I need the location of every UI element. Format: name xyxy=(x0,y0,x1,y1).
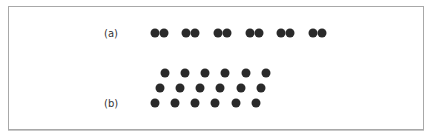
dot-row-3-col-4 xyxy=(211,99,220,108)
dot-pair-6-dot-1 xyxy=(309,29,318,38)
dot-row-2-col-6 xyxy=(257,84,266,93)
dot-row-1-col-5 xyxy=(242,69,251,78)
dot-row-3-col-3 xyxy=(191,99,200,108)
dot-row-2-col-3 xyxy=(196,84,205,93)
dot-row-3-col-6 xyxy=(252,99,261,108)
dot-row-3-col-2 xyxy=(171,99,180,108)
dot-pair-2-dot-2 xyxy=(191,29,200,38)
dot-pair-2-dot-1 xyxy=(182,29,191,38)
dot-pair-4-dot-1 xyxy=(246,29,255,38)
dot-pair-1-dot-2 xyxy=(160,29,169,38)
dot-row-1-col-1 xyxy=(161,69,170,78)
figure-frame xyxy=(8,6,424,130)
dot-row-1-col-3 xyxy=(201,69,210,78)
dot-pair-3-dot-2 xyxy=(223,29,232,38)
dot-row-2-col-2 xyxy=(176,84,185,93)
dot-pair-5-dot-2 xyxy=(286,29,295,38)
dot-pair-4-dot-2 xyxy=(255,29,264,38)
panel-b-label: (b) xyxy=(104,98,118,109)
dot-row-2-col-5 xyxy=(237,84,246,93)
dot-pair-1-dot-1 xyxy=(151,29,160,38)
dot-row-2-col-1 xyxy=(156,84,165,93)
dot-row-1-col-4 xyxy=(221,69,230,78)
dot-pair-6-dot-2 xyxy=(318,29,327,38)
panel-a-label: (a) xyxy=(104,28,118,39)
dot-row-1-col-2 xyxy=(181,69,190,78)
dot-row-3-col-5 xyxy=(232,99,241,108)
dot-pair-5-dot-1 xyxy=(277,29,286,38)
dot-row-3-col-1 xyxy=(151,99,160,108)
dot-pair-3-dot-1 xyxy=(214,29,223,38)
dot-row-2-col-4 xyxy=(216,84,225,93)
dot-row-1-col-6 xyxy=(262,69,271,78)
